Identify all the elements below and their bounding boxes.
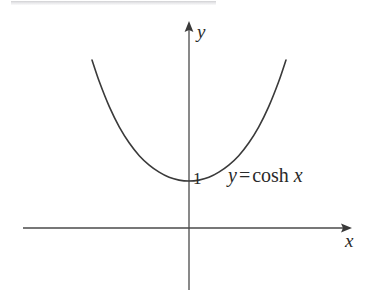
y-axis-label: y [197, 22, 205, 41]
plot-svg [0, 0, 372, 295]
equation-equals-sign: = [237, 164, 252, 186]
equation-function-name: cosh [252, 164, 289, 186]
x-axis-label: x [345, 231, 353, 250]
equation-variable-y: y [228, 164, 237, 186]
y-intercept-label: 1 [193, 170, 202, 187]
figure-canvas: y x 1 y=cosh x [0, 0, 372, 295]
curve-equation-label: y=cosh x [228, 165, 303, 185]
equation-variable-x: x [294, 164, 303, 186]
